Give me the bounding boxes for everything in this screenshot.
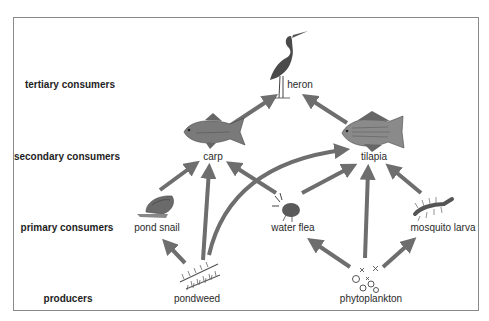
arrow-water-flea-to-tilapia — [302, 167, 351, 193]
arrow-phytoplankton-to-water-flea — [313, 242, 350, 267]
level-label-tertiary-consumers: tertiary consumers — [25, 79, 115, 90]
organism-label-pond-snail: pond snail — [134, 222, 180, 233]
organism-label-mosquito-larva: mosquito larva — [410, 222, 475, 233]
arrow-phytoplankton-to-tilapia — [365, 171, 368, 258]
tilapia-icon — [342, 111, 404, 152]
level-label-secondary-consumers: secondary consumers — [14, 151, 120, 162]
arrow-mosquito-larva-to-tilapia — [391, 168, 421, 193]
organism-label-heron: heron — [287, 79, 313, 90]
arrow-pondweed-to-pond-snail — [167, 244, 185, 263]
pondweed-icon — [180, 262, 220, 290]
level-label-producers: producers — [44, 293, 93, 304]
arrow-water-flea-to-carp — [232, 165, 276, 193]
arrow-tilapia-to-heron — [308, 98, 347, 123]
organism-label-phytoplankton: phytoplankton — [340, 293, 402, 304]
arrow-pondweed-to-carp — [203, 170, 209, 260]
organism-label-tilapia: tilapia — [361, 151, 387, 162]
phytoplankton-icon — [353, 266, 379, 293]
arrow-phytoplankton-to-mosquito-larva — [383, 242, 411, 267]
organism-label-water-flea: water flea — [271, 222, 314, 233]
pond-snail-icon — [137, 196, 174, 218]
organism-label-carp: carp — [203, 151, 222, 162]
arrow-pondweed-to-tilapia — [209, 150, 343, 255]
mosquito-larva-icon — [415, 197, 452, 221]
organism-label-pondweed: pondweed — [174, 293, 220, 304]
carp-icon — [184, 113, 245, 149]
arrow-pond-snail-to-carp — [160, 165, 194, 190]
level-label-primary-consumers: primary consumers — [21, 222, 114, 233]
water-flea-icon — [272, 193, 300, 222]
